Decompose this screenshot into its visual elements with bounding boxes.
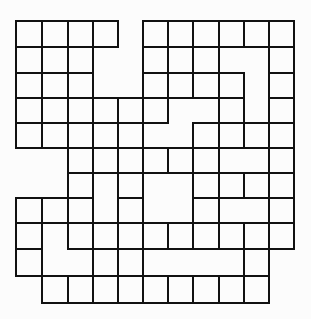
grid-diagram <box>0 0 311 319</box>
